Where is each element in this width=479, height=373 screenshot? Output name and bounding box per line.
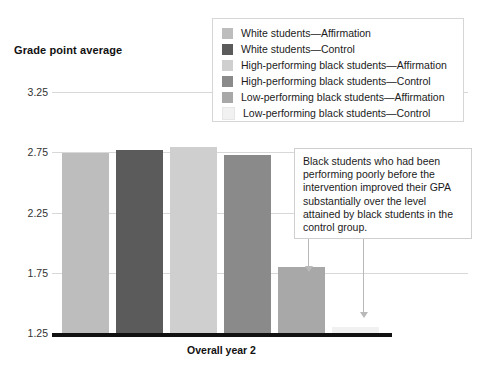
- legend-item-label: White students—Affirmation: [241, 28, 371, 39]
- x-axis-baseline: [52, 333, 392, 337]
- bar: [278, 267, 325, 333]
- legend-item: White students—Affirmation: [222, 26, 455, 41]
- annotation-leader-line-1: [308, 239, 309, 267]
- legend-item-label: Low-performing black students—Affirmatio…: [241, 92, 444, 103]
- bar: [116, 150, 163, 333]
- legend-swatch-icon: [222, 28, 233, 39]
- legend-item-label: High-performing black students—Control: [241, 76, 431, 87]
- bar: [170, 147, 217, 333]
- legend-item: High-performing black students—Control: [222, 74, 455, 89]
- bar: [224, 155, 271, 333]
- legend-item-label: Low-performing black students—Control: [243, 108, 430, 119]
- legend-item: White students—Control: [222, 42, 455, 57]
- chart-legend: White students—AffirmationWhite students…: [212, 18, 464, 122]
- legend-item-label: White students—Control: [241, 44, 355, 55]
- legend-swatch-icon: [222, 92, 233, 103]
- y-tick-label: 1.25: [12, 327, 48, 339]
- legend-item: Low-performing black students—Affirmatio…: [222, 90, 455, 105]
- y-tick-label: 1.75: [12, 267, 48, 279]
- annotation-arrow-1: [305, 266, 313, 272]
- x-axis-label: Overall year 2: [187, 344, 256, 356]
- x-axis-label-wrap: Overall year 2: [0, 344, 479, 356]
- y-tick-label: 2.75: [12, 146, 48, 158]
- annotation-callout: Black students who had been performing p…: [294, 148, 472, 239]
- legend-item-label: High-performing black students—Affirmati…: [241, 60, 447, 71]
- y-axis-title: Grade point average: [14, 43, 122, 57]
- legend-swatch-icon: [222, 44, 233, 55]
- legend-swatch-icon: [222, 60, 233, 71]
- bar: [62, 153, 109, 333]
- legend-swatch-icon: [222, 76, 233, 87]
- annotation-arrow-2: [360, 312, 368, 318]
- legend-item: High-performing black students—Affirmati…: [222, 58, 455, 73]
- legend-item: Low-performing black students—Control: [222, 106, 455, 121]
- y-tick-label: 3.25: [12, 86, 48, 98]
- annotation-leader-line-2: [363, 239, 364, 313]
- y-tick-label: 2.25: [12, 207, 48, 219]
- chart-figure: Grade point average 3.252.752.251.751.25…: [0, 0, 479, 373]
- legend-swatch-icon: [222, 107, 235, 120]
